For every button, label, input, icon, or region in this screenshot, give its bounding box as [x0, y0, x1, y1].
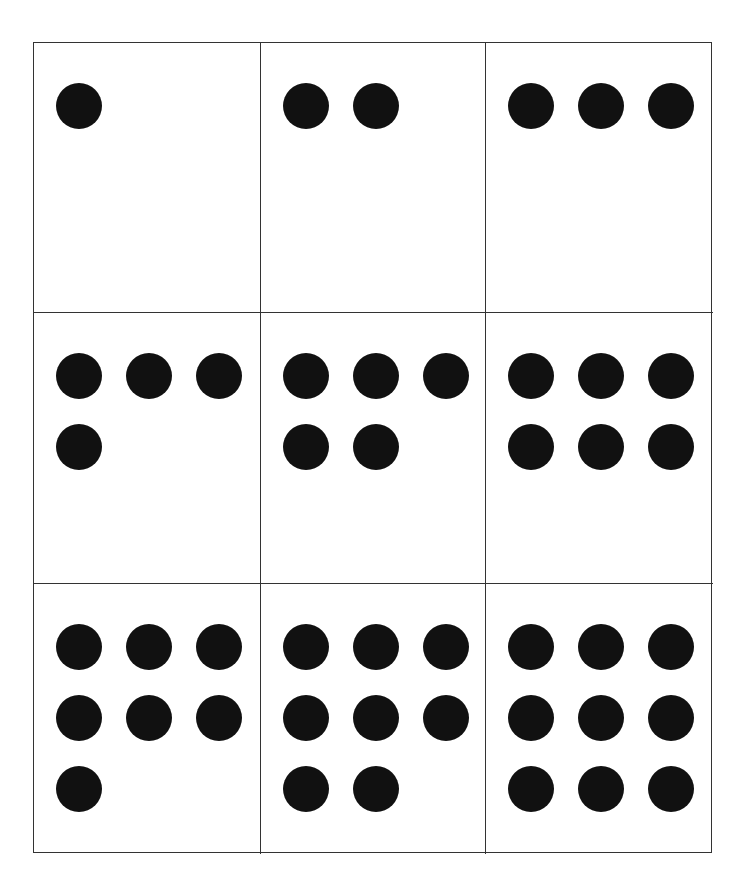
- dot-icon: [648, 695, 694, 741]
- dot-card-3: 3: [486, 43, 713, 313]
- dot-count-value: 9: [486, 584, 487, 585]
- dot-icon: [508, 353, 554, 399]
- dot-count-value: 7: [34, 584, 35, 585]
- dot-count-value: 6: [486, 313, 487, 314]
- dot-icon: [126, 695, 172, 741]
- dot-card-9: 9: [486, 584, 713, 854]
- dot-count-value: 1: [34, 43, 35, 44]
- dot-icon: [56, 83, 102, 129]
- dot-icon: [283, 83, 329, 129]
- dot-count-value: 4: [34, 313, 35, 314]
- dot-icon: [578, 695, 624, 741]
- dot-icon: [56, 695, 102, 741]
- dot-card-4: 4: [34, 313, 261, 584]
- dot-icon: [196, 624, 242, 670]
- dot-icon: [283, 353, 329, 399]
- dot-icon: [578, 766, 624, 812]
- dot-card-6: 6: [486, 313, 713, 584]
- dot-card-1: 1: [34, 43, 261, 313]
- dot-icon: [353, 353, 399, 399]
- dot-icon: [56, 353, 102, 399]
- dot-icon: [126, 624, 172, 670]
- dot-icon: [423, 624, 469, 670]
- dot-icon: [56, 424, 102, 470]
- dot-icon: [578, 624, 624, 670]
- dot-card-8: 8: [261, 584, 486, 854]
- dot-icon: [578, 83, 624, 129]
- dot-icon: [126, 353, 172, 399]
- dot-icon: [283, 424, 329, 470]
- dot-count-value: 5: [261, 313, 262, 314]
- dot-icon: [508, 766, 554, 812]
- dot-icon: [648, 624, 694, 670]
- dot-icon: [648, 424, 694, 470]
- dot-icon: [283, 766, 329, 812]
- dot-icon: [353, 766, 399, 812]
- dot-icon: [508, 695, 554, 741]
- dot-icon: [423, 695, 469, 741]
- dot-icon: [353, 695, 399, 741]
- dot-card-2: 2: [261, 43, 486, 313]
- dot-icon: [283, 624, 329, 670]
- dot-icon: [508, 83, 554, 129]
- dot-icon: [353, 83, 399, 129]
- dot-icon: [648, 353, 694, 399]
- dot-icon: [196, 695, 242, 741]
- dot-icon: [578, 353, 624, 399]
- dot-card-7: 7: [34, 584, 261, 854]
- dot-icon: [56, 766, 102, 812]
- dot-card-5: 5: [261, 313, 486, 584]
- dot-card-grid: 123456789: [33, 42, 712, 853]
- dot-icon: [56, 624, 102, 670]
- dot-count-value: 8: [261, 584, 262, 585]
- dot-icon: [508, 424, 554, 470]
- dot-icon: [423, 353, 469, 399]
- dot-icon: [648, 766, 694, 812]
- dot-icon: [353, 624, 399, 670]
- dot-icon: [578, 424, 624, 470]
- dot-icon: [353, 424, 399, 470]
- dot-icon: [283, 695, 329, 741]
- dot-icon: [508, 624, 554, 670]
- dot-count-value: 2: [261, 43, 262, 44]
- dot-icon: [196, 353, 242, 399]
- dot-count-value: 3: [486, 43, 487, 44]
- dot-icon: [648, 83, 694, 129]
